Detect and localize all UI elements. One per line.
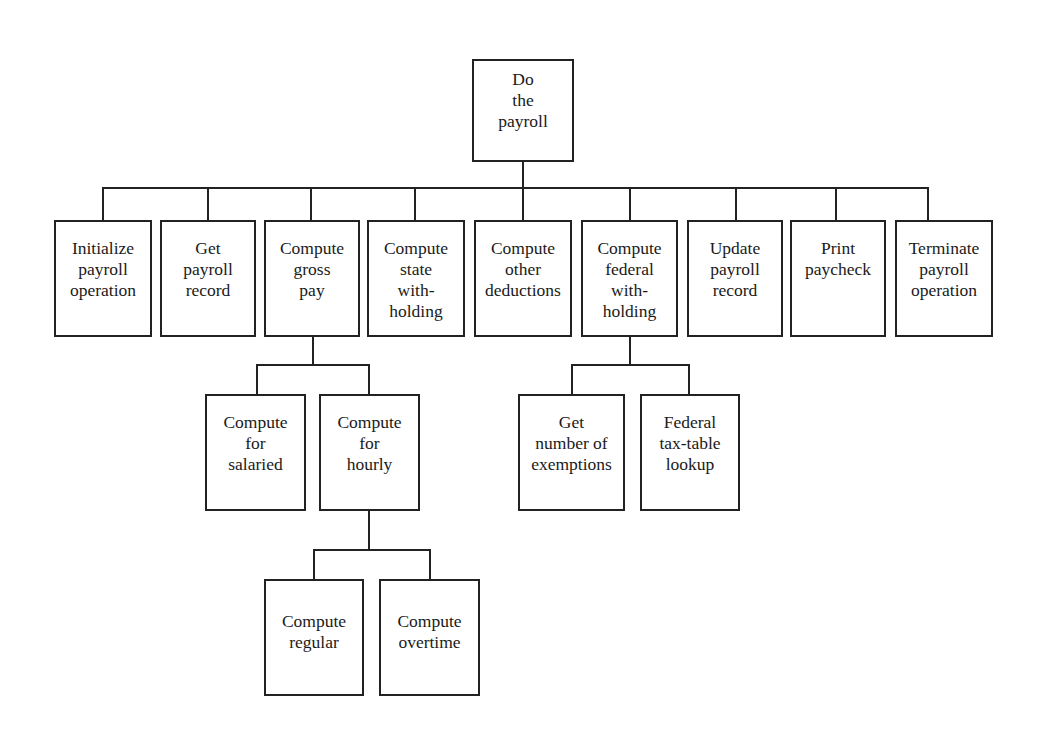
connector bbox=[522, 187, 524, 222]
box-compute-for-salaried: Compute for salaried bbox=[205, 394, 306, 511]
box-label-line: Initialize bbox=[72, 238, 134, 259]
connector bbox=[414, 187, 416, 222]
box-label-line: deductions bbox=[485, 280, 561, 301]
box-label-line: with- bbox=[611, 280, 648, 301]
box-compute-for-hourly: Compute for hourly bbox=[319, 394, 420, 511]
box-label-line: exemptions bbox=[531, 454, 612, 475]
connector bbox=[927, 187, 929, 222]
box-label-line: Compute bbox=[280, 238, 344, 259]
box-label-line: holding bbox=[389, 301, 442, 322]
box-label-line: Compute bbox=[223, 412, 287, 433]
connector bbox=[256, 364, 258, 396]
connector bbox=[429, 549, 431, 581]
box-label-line: the bbox=[512, 90, 533, 111]
payroll-hierarchy-diagram: Do the payroll Initialize payroll operat… bbox=[0, 0, 1046, 741]
box-compute-regular: Compute regular bbox=[264, 579, 364, 696]
box-federal-tax-table-lookup: Federal tax-table lookup bbox=[640, 394, 740, 511]
box-get-payroll-record: Get payroll record bbox=[160, 220, 256, 337]
box-get-number-of-exemptions: Get number of exemptions bbox=[518, 394, 625, 511]
connector bbox=[571, 364, 690, 366]
connector bbox=[368, 364, 370, 396]
box-compute-federal-withholding: Compute federal with- holding bbox=[581, 220, 678, 337]
box-label-line: Compute bbox=[384, 238, 448, 259]
box-label-line: hourly bbox=[347, 454, 393, 475]
box-label-line: Compute bbox=[491, 238, 555, 259]
box-label-line: overtime bbox=[398, 632, 460, 653]
box-label-line: payroll bbox=[498, 111, 548, 132]
box-update-payroll-record: Update payroll record bbox=[687, 220, 783, 337]
box-label-line: paycheck bbox=[805, 259, 871, 280]
box-compute-other-deductions: Compute other deductions bbox=[474, 220, 572, 337]
box-label-line: state bbox=[400, 259, 432, 280]
box-label-line: payroll bbox=[919, 259, 969, 280]
box-label-line: operation bbox=[70, 280, 136, 301]
box-label-line: Compute bbox=[597, 238, 661, 259]
connector bbox=[102, 187, 104, 222]
connector bbox=[522, 161, 524, 188]
box-label-line: Compute bbox=[337, 412, 401, 433]
box-do-the-payroll: Do the payroll bbox=[472, 59, 574, 162]
box-compute-gross-pay: Compute gross pay bbox=[264, 220, 360, 337]
box-label-line: salaried bbox=[228, 454, 282, 475]
connector bbox=[368, 510, 370, 550]
connector bbox=[312, 335, 314, 365]
box-label-line: holding bbox=[603, 301, 656, 322]
box-print-paycheck: Print paycheck bbox=[790, 220, 886, 337]
box-label-line: record bbox=[713, 280, 758, 301]
box-label-line: gross bbox=[294, 259, 331, 280]
box-label-line: federal bbox=[605, 259, 654, 280]
box-label-line: Compute bbox=[282, 611, 346, 632]
box-label-line: for bbox=[245, 433, 265, 454]
box-label-line: Update bbox=[710, 238, 761, 259]
box-label-line: payroll bbox=[710, 259, 760, 280]
box-label-line: tax-table bbox=[659, 433, 720, 454]
connector bbox=[629, 335, 631, 365]
connector bbox=[256, 364, 370, 366]
box-label-line: other bbox=[505, 259, 541, 280]
box-label-line: record bbox=[186, 280, 231, 301]
box-label-line: Print bbox=[821, 238, 855, 259]
box-label-line: Get bbox=[195, 238, 220, 259]
connector bbox=[629, 187, 631, 222]
box-initialize-payroll-operation: Initialize payroll operation bbox=[54, 220, 152, 337]
connector bbox=[571, 364, 573, 396]
box-label-line: payroll bbox=[183, 259, 233, 280]
box-compute-state-withholding: Compute state with- holding bbox=[367, 220, 465, 337]
box-label-line: with- bbox=[398, 280, 435, 301]
box-label-line: Terminate bbox=[909, 238, 980, 259]
box-compute-overtime: Compute overtime bbox=[379, 579, 480, 696]
box-label-line: Compute bbox=[397, 611, 461, 632]
connector bbox=[688, 364, 690, 396]
box-terminate-payroll-operation: Terminate payroll operation bbox=[895, 220, 993, 337]
box-label-line: regular bbox=[289, 632, 339, 653]
box-label-line: payroll bbox=[78, 259, 128, 280]
box-label-line: for bbox=[359, 433, 379, 454]
box-label-line: pay bbox=[299, 280, 324, 301]
box-label-line: Federal bbox=[664, 412, 716, 433]
connector bbox=[735, 187, 737, 222]
connector bbox=[310, 187, 312, 222]
connector bbox=[313, 549, 430, 551]
connector bbox=[207, 187, 209, 222]
box-label-line: Get bbox=[559, 412, 584, 433]
box-label-line: Do bbox=[512, 69, 533, 90]
box-label-line: operation bbox=[911, 280, 977, 301]
box-label-line: lookup bbox=[666, 454, 715, 475]
connector bbox=[102, 187, 928, 189]
connector bbox=[835, 187, 837, 222]
box-label-line: number of bbox=[535, 433, 607, 454]
connector bbox=[313, 549, 315, 581]
